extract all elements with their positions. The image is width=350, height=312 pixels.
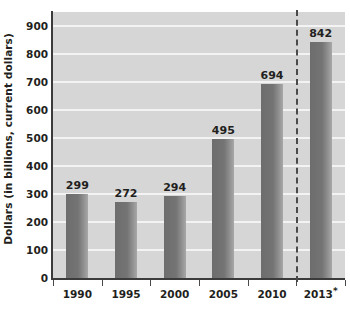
- y-tick-label-500: 500: [26, 132, 48, 144]
- gridline-800: [53, 53, 345, 55]
- x-tick-mark-end: [345, 280, 346, 286]
- x-tick-label-2000: 2000: [160, 288, 189, 300]
- bar-chart: Dollars (in billions, current dollars) 0…: [0, 0, 350, 312]
- y-tick-label-900: 900: [26, 20, 48, 32]
- y-tick-label-400: 400: [26, 160, 48, 172]
- bar-value-label-2000: 294: [163, 181, 186, 194]
- gridline-900: [53, 25, 345, 27]
- y-axis-line: [51, 11, 53, 280]
- forecast-divider-line: [296, 10, 298, 282]
- gridline-600: [53, 109, 345, 111]
- y-tick-label-700: 700: [26, 76, 48, 88]
- y-tick-label-800: 800: [26, 48, 48, 60]
- x-axis-line: [51, 278, 345, 280]
- x-tick-mark-4: [248, 280, 249, 286]
- y-axis-tick-labels: 0100200300400500600700800900: [16, 14, 48, 278]
- y-tick-label-100: 100: [26, 244, 48, 256]
- gridline-200: [53, 221, 345, 223]
- gridline-300: [53, 193, 345, 195]
- x-tick-label-1990: 1990: [63, 288, 92, 300]
- x-tick-label-1995: 1995: [111, 288, 140, 300]
- x-tick-mark-5: [296, 280, 297, 286]
- y-tick-label-600: 600: [26, 104, 48, 116]
- x-tick-mark-1: [102, 280, 103, 286]
- bar-2013: [310, 42, 332, 278]
- bar-1990: [66, 194, 88, 278]
- bar-value-label-1990: 299: [66, 179, 89, 192]
- bar-2010: [261, 84, 283, 278]
- x-tick-mark-0: [53, 280, 54, 286]
- gridline-500: [53, 137, 345, 139]
- bar-value-label-2005: 495: [212, 124, 235, 137]
- x-tick-label-2010: 2010: [257, 288, 286, 300]
- plot-area: [53, 12, 345, 278]
- bar-value-label-1995: 272: [115, 187, 138, 200]
- gridline-700: [53, 81, 345, 83]
- bar-2005: [212, 139, 234, 278]
- y-axis-title: Dollars (in billions, current dollars): [0, 0, 16, 278]
- y-tick-label-300: 300: [26, 188, 48, 200]
- bar-1995: [115, 202, 137, 278]
- x-tick-mark-3: [199, 280, 200, 286]
- bar-value-label-2010: 694: [261, 69, 284, 82]
- y-tick-label-0: 0: [41, 272, 48, 284]
- x-tick-label-2013: 2013*: [304, 288, 338, 300]
- x-tick-label-2005: 2005: [209, 288, 238, 300]
- y-tick-label-200: 200: [26, 216, 48, 228]
- gridline-100: [53, 249, 345, 251]
- bar-2000: [164, 196, 186, 278]
- gridline-400: [53, 165, 345, 167]
- bar-value-label-2013: 842: [309, 27, 332, 40]
- x-tick-mark-2: [150, 280, 151, 286]
